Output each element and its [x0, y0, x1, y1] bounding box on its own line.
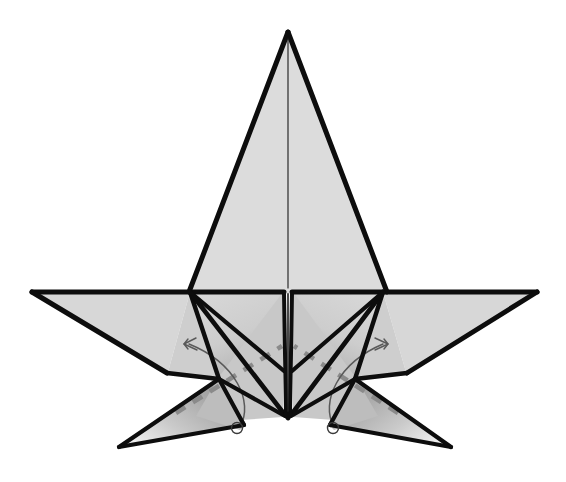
- origami-figure: [0, 0, 566, 482]
- bottom-point-tip: [286, 414, 290, 418]
- origami-diagram-canvas: Origami star base — rotate lower flaps o…: [0, 0, 566, 482]
- spine-right-line: [290, 292, 292, 414]
- spine-left-line: [284, 292, 286, 414]
